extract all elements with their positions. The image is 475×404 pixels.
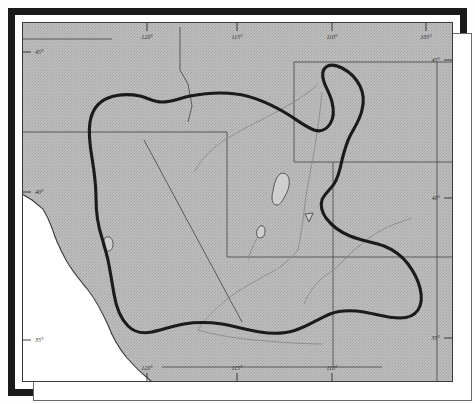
map-figure: 120° 115° 110° 105° 120° 115° 110° 45° 4… bbox=[0, 0, 475, 404]
label-lon-top-105: 105° bbox=[420, 34, 432, 40]
label-lon-top-110: 110° bbox=[327, 34, 339, 40]
label-lat-right-35: 35° bbox=[431, 335, 441, 341]
map-plate: 120° 115° 110° 105° 120° 115° 110° 45° 4… bbox=[22, 22, 453, 382]
label-lon-bot-115: 115° bbox=[232, 365, 244, 371]
label-lat-left-35: 35° bbox=[34, 337, 44, 343]
label-lon-bot-110: 110° bbox=[327, 365, 339, 371]
label-lon-bot-120: 120° bbox=[141, 365, 153, 371]
label-lat-left-40: 40° bbox=[35, 189, 44, 195]
label-lon-top-115: 115° bbox=[232, 34, 244, 40]
map-canvas: 120° 115° 110° 105° 120° 115° 110° 45° 4… bbox=[22, 22, 453, 382]
label-lat-right-40: 40° bbox=[432, 195, 441, 201]
label-lat-right-45: 45° bbox=[432, 57, 441, 63]
label-lat-left-45: 45° bbox=[35, 49, 44, 55]
label-lon-top-120: 120° bbox=[141, 34, 153, 40]
